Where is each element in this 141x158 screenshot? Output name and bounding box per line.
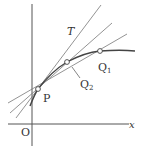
q2-leader-line	[72, 67, 80, 78]
label-q1: Q1	[98, 61, 112, 75]
label-q2: Q2	[80, 78, 94, 92]
label-x-axis: x	[129, 119, 135, 130]
point-p	[36, 87, 41, 92]
label-p: P	[43, 92, 51, 105]
tangent-line-t	[16, 5, 101, 118]
label-t: T	[67, 25, 76, 38]
point-q1	[98, 49, 103, 54]
label-origin: O	[21, 126, 30, 139]
point-q2	[65, 60, 70, 65]
diagram-canvas: T P Q1 Q2 O x	[0, 0, 141, 158]
secant-line-pq2	[10, 23, 112, 113]
